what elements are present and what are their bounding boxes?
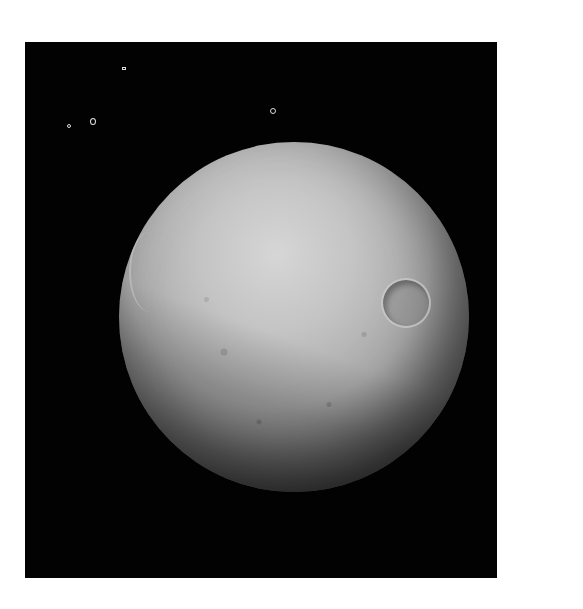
star-dot (270, 108, 276, 114)
limb-basin (129, 232, 171, 312)
star-dot (122, 67, 126, 70)
photo-frame (25, 42, 497, 578)
star-dot (90, 118, 96, 125)
star-dot (67, 124, 71, 128)
large-crater (381, 278, 431, 328)
